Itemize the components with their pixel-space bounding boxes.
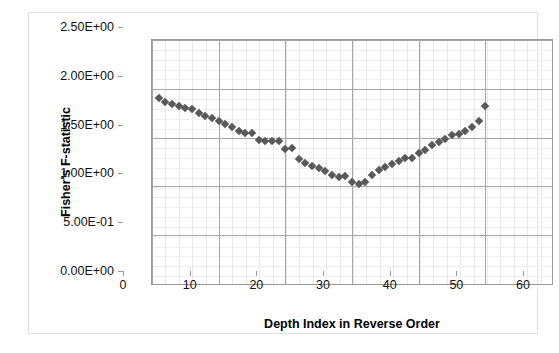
y-tick-label: 1.50E+00 [29, 118, 114, 132]
data-point [408, 154, 416, 162]
x-gridline [352, 40, 353, 284]
y-tick-label: 0.00E+00 [29, 264, 114, 278]
x-gridline [152, 40, 153, 284]
data-point [474, 117, 482, 125]
y-tick-label: 1.00E+00 [29, 166, 114, 180]
x-tick-label: 0 [120, 278, 127, 292]
y-gridline [152, 89, 552, 90]
data-point [248, 128, 256, 136]
x-tick-label: 60 [516, 278, 530, 292]
x-tick-mark [323, 271, 324, 276]
x-tick-label: 30 [316, 278, 330, 292]
x-axis-title: Depth Index in Reverse Order [151, 317, 553, 331]
y-tick-mark [118, 271, 123, 272]
x-gridline [485, 40, 486, 284]
y-tick-label: 2.00E+00 [29, 69, 114, 83]
x-tick-mark [523, 271, 524, 276]
chart-frame: Fisher's F-statistic Depth Index in Reve… [28, 12, 538, 334]
data-point [341, 171, 349, 179]
y-tick-mark [118, 27, 123, 28]
data-point [368, 170, 376, 178]
y-tick-label: 5.00E-01 [29, 215, 114, 229]
x-tick-label: 50 [449, 278, 463, 292]
data-point [481, 102, 489, 110]
x-tick-mark [123, 271, 124, 276]
y-gridline [152, 235, 552, 236]
y-gridline [152, 284, 552, 285]
x-tick-label: 20 [249, 278, 263, 292]
x-tick-label: 10 [183, 278, 197, 292]
plot-area [151, 39, 553, 285]
y-gridline [152, 186, 552, 187]
x-tick-mark [190, 271, 191, 276]
x-gridline [285, 40, 286, 284]
x-tick-mark [390, 271, 391, 276]
x-gridline [219, 40, 220, 284]
y-gridline [152, 138, 552, 139]
x-gridline [419, 40, 420, 284]
x-tick-mark [456, 271, 457, 276]
chart-figure: Fisher's F-statistic Depth Index in Reve… [0, 0, 559, 353]
y-tick-label: 2.50E+00 [29, 20, 114, 34]
x-gridline [552, 40, 553, 284]
x-tick-label: 40 [383, 278, 397, 292]
y-tick-mark [118, 173, 123, 174]
x-tick-mark [256, 271, 257, 276]
y-gridline [152, 40, 552, 41]
y-tick-mark [118, 76, 123, 77]
y-tick-mark [118, 125, 123, 126]
data-point [288, 144, 296, 152]
y-tick-mark [118, 222, 123, 223]
